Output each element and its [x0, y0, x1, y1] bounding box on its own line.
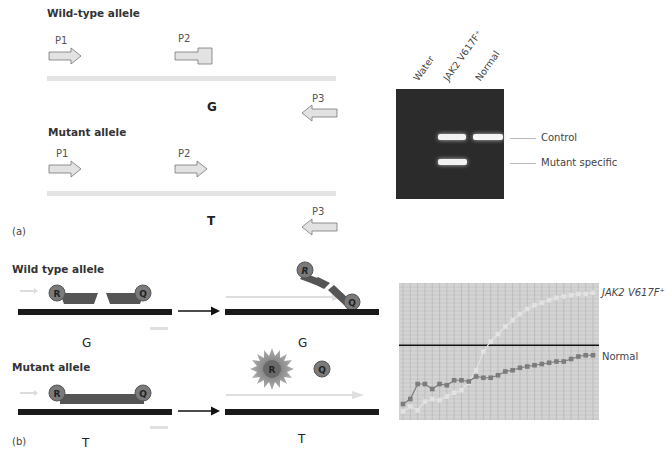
- normal-curve-label: Normal: [602, 351, 638, 362]
- mutant-pointer: [510, 163, 536, 164]
- mutant-base-after: T: [298, 432, 305, 446]
- mutant-band-label: Mutant specific: [541, 157, 617, 168]
- agarose-gel: [396, 89, 504, 199]
- gel-band-normal-control: [473, 134, 503, 140]
- wild-type-allele-heading: Wild type allele: [12, 263, 104, 275]
- primer-p2-label: P2: [178, 148, 190, 159]
- mutant-allele-heading: Mutant allele: [12, 361, 90, 373]
- mutant-base: T: [207, 214, 215, 228]
- mutant-allele-heading: Mutant allele: [48, 126, 126, 138]
- primer-p1-label: P1: [55, 35, 67, 46]
- wild-type-dna-strand: [47, 76, 336, 81]
- wild-type-base: G: [207, 100, 217, 114]
- svg-text:R: R: [302, 266, 309, 276]
- wild-type-base-before: G: [82, 336, 91, 350]
- gel-band-jak2-mutant: [438, 159, 467, 165]
- blocked-primer-icon: [174, 47, 214, 65]
- svg-text:Q: Q: [318, 365, 326, 375]
- control-pointer: [510, 138, 536, 139]
- svg-text:Q: Q: [139, 289, 147, 299]
- amplification-curves: [399, 283, 599, 420]
- panel-b-tag: (b): [12, 436, 26, 447]
- lane-label-water: Water: [411, 54, 436, 83]
- wild-type-product-strand: [225, 309, 379, 315]
- gel-band-jak2-control: [438, 134, 466, 140]
- mutant-product-strand: [225, 409, 379, 415]
- reverse-primer: [150, 327, 168, 330]
- svg-text:Q: Q: [348, 298, 356, 308]
- control-band-label: Control: [541, 132, 577, 143]
- primer-p2-label: P2: [178, 33, 190, 44]
- reverse-primer: [150, 426, 168, 429]
- primer-p3-label: P3: [312, 206, 324, 217]
- wild-type-allele-heading: Wild-type allele: [47, 7, 140, 19]
- primer-p1-label: P1: [56, 148, 68, 159]
- mutant-specific-primer-arrow-icon: [174, 160, 210, 178]
- svg-text:R: R: [54, 389, 61, 399]
- intact-probe-mismatch-icon: R Q: [16, 283, 186, 323]
- mutant-dna-strand: [47, 191, 336, 196]
- svg-text:Q: Q: [139, 389, 147, 399]
- mutant-template-strand: [18, 409, 172, 415]
- svg-text:R: R: [269, 365, 276, 375]
- panel-a-tag: (a): [12, 226, 26, 237]
- primer-p3-label: P3: [312, 93, 324, 104]
- mutant-base-before: T: [82, 436, 89, 450]
- cleaved-probe-fluorescence-icon: R Q: [222, 345, 382, 405]
- amplification-plot: [399, 283, 599, 420]
- lane-label-normal: Normal: [473, 49, 502, 83]
- reaction-arrow-icon: [176, 405, 222, 417]
- forward-primer-arrow-icon: [48, 47, 84, 65]
- reverse-primer-arrow-icon: [300, 104, 338, 122]
- wild-type-template-strand: [18, 309, 172, 315]
- reverse-primer-arrow-icon: [300, 218, 338, 236]
- mutant-curve-label: JAK2 V617F⁺: [602, 287, 665, 298]
- forward-primer-arrow-icon: [48, 160, 84, 178]
- reporter-letter: R: [54, 289, 61, 299]
- reaction-arrow-icon: [176, 305, 222, 317]
